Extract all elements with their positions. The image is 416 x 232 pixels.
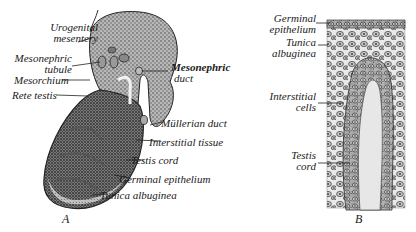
label-interstitial-tissue: Interstitial tissue — [149, 137, 223, 148]
panel-b-letter: B — [355, 212, 362, 227]
label-testis-cord: Testis cord — [131, 155, 178, 166]
label-urogenital-mesentery-line2: mesentery — [22, 33, 98, 44]
label-mesorchium: Mesorchium — [14, 75, 69, 86]
label-mesonephric-duct-line2: duct — [174, 73, 193, 84]
mullerian-duct — [141, 116, 148, 125]
label-b-testis-cord-line2: cord — [256, 161, 316, 172]
label-tunica-albuginea: Tunica albuginea — [100, 190, 177, 201]
germinal-epithelium-band — [327, 20, 405, 28]
label-germinal-epithelium: Germinal epithelium — [119, 174, 210, 185]
label-b-interstitial-cells-line2: cells — [256, 102, 316, 113]
panel-a-letter: A — [62, 212, 69, 227]
label-b-germinal-epithelium-line2: epithelium — [256, 24, 316, 35]
label-b-tunica-albuginea-line2: albuginea — [256, 48, 316, 59]
label-rete-testis: Rete testis — [12, 90, 57, 101]
mesonephric-duct — [136, 67, 143, 75]
label-mullerian-duct: Müllerian duct — [161, 118, 227, 129]
panel-b-illustration — [327, 20, 405, 210]
